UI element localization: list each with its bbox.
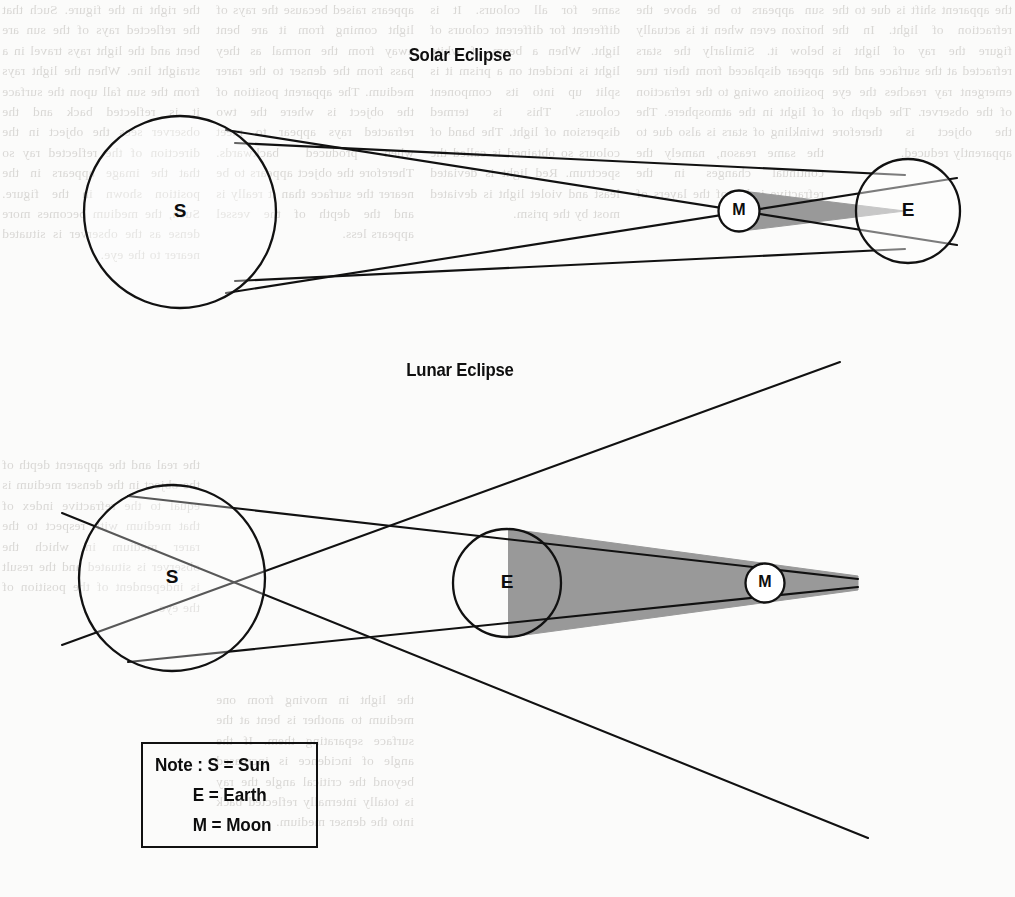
- lunar-sun-circle: [79, 485, 265, 671]
- legend-row-sun: Note : S = Sun: [155, 750, 291, 780]
- lunar-eclipse-title: Lunar Eclipse: [363, 359, 557, 381]
- solar-tangent-internal-lower: [235, 249, 905, 281]
- legend-list: Note : S = Sun E = Earth M = Moon: [143, 750, 316, 840]
- solar-eclipse-diagram: [84, 116, 960, 308]
- solar-eclipse-title: Solar Eclipse: [363, 44, 557, 66]
- legend-row-earth: E = Earth: [155, 780, 291, 810]
- eclipse-diagram-page: the right in the figure. Such that the r…: [0, 0, 1015, 897]
- legend-row-moon: M = Moon: [155, 810, 291, 840]
- solar-sun-circle: [84, 116, 276, 308]
- solar-tangent-internal-upper: [235, 143, 905, 175]
- lunar-moon-circle: [746, 564, 785, 603]
- solar-earth-circle: [856, 159, 960, 263]
- legend-box: Note : S = Sun E = Earth M = Moon: [141, 742, 318, 848]
- solar-moon-circle: [719, 191, 760, 232]
